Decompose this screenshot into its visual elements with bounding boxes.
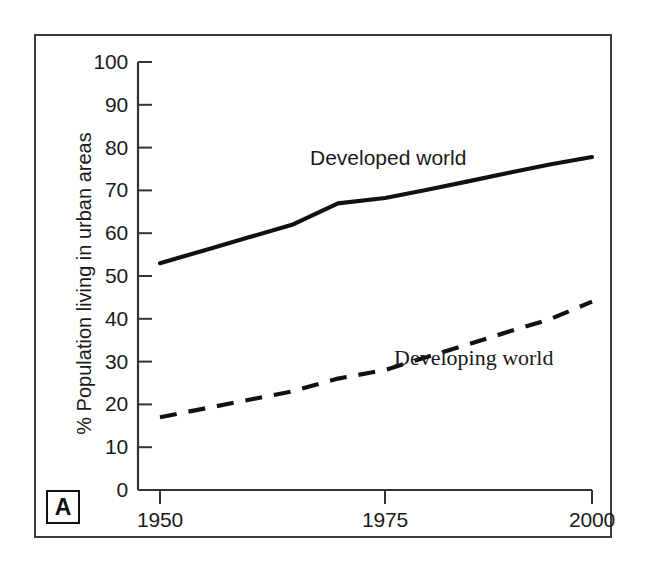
y-tick-label-100: 100 xyxy=(72,50,128,74)
x-tick-label-1975: 1975 xyxy=(340,508,430,532)
panel-label-a: A xyxy=(46,490,80,524)
x-tick-marks xyxy=(160,490,592,504)
series-label-developed: Developed world xyxy=(310,146,466,170)
y-axis-title: % Population living in urban areas xyxy=(73,74,96,494)
series-line-developed xyxy=(160,157,592,263)
figure-container: 100 90 80 70 60 50 40 30 20 10 0 1950 19… xyxy=(0,0,646,572)
series-label-developing: Developing world xyxy=(394,345,553,371)
x-tick-label-2000: 2000 xyxy=(547,508,637,532)
y-tick-marks xyxy=(138,62,152,490)
x-tick-label-1950: 1950 xyxy=(115,508,205,532)
